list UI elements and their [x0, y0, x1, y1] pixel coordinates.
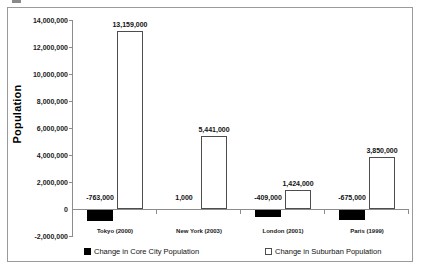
bar-label-suburban-newyork: 5,441,000 [198, 126, 229, 133]
chart-screenshot: Population 14,000,000 12,000,000 10,000,… [0, 0, 423, 268]
y-tick-mark [69, 20, 73, 21]
bar-label-suburban-paris: 3,850,000 [366, 147, 397, 154]
bar-label-core-london: -409,000 [254, 194, 282, 201]
x-tick-mark [408, 210, 409, 214]
y-tick-mark [69, 101, 73, 102]
legend-swatch-icon [265, 248, 272, 255]
y-tick-label: 14,000,000 [33, 17, 68, 24]
bar-core-london[interactable] [255, 210, 281, 217]
legend-swatch-icon [84, 248, 91, 255]
y-tick-mark [69, 236, 73, 237]
y-tick-mark [69, 47, 73, 48]
x-tick-mark [156, 210, 157, 214]
y-tick-label: -2,000,000 [35, 233, 68, 240]
y-tick-mark [69, 74, 73, 75]
bar-label-core-paris: -675,000 [338, 194, 366, 201]
y-tick-label: 4,000,000 [37, 152, 68, 159]
category-label-london: London (2001) [262, 228, 303, 234]
bar-label-core-tokyo: -763,000 [86, 194, 114, 201]
y-tick-label: 2,000,000 [37, 179, 68, 186]
legend-item-suburban[interactable]: Change in Suburban Population [265, 245, 381, 257]
legend-item-label: Change in Core City Population [94, 247, 199, 256]
y-tick-label: 0 [64, 206, 68, 213]
bar-core-paris[interactable] [339, 210, 365, 220]
category-label-tokyo: Tokyo (2000) [97, 228, 133, 234]
bar-label-suburban-london: 1,424,000 [282, 180, 313, 187]
bar-core-tokyo[interactable] [87, 210, 113, 221]
y-tick-label: 12,000,000 [33, 44, 68, 51]
bar-suburban-london[interactable] [285, 190, 311, 209]
bar-suburban-paris[interactable] [369, 157, 395, 209]
x-tick-mark [240, 210, 241, 214]
y-tick-mark [69, 155, 73, 156]
y-axis-title: Population [11, 59, 23, 169]
y-tick-mark [69, 182, 73, 183]
y-tick-label: 6,000,000 [37, 125, 68, 132]
chart-legend: Change in Core City Population Change in… [72, 245, 412, 259]
category-label-newyork: New York (2003) [176, 228, 222, 234]
bar-suburban-newyork[interactable] [201, 136, 227, 209]
bar-suburban-tokyo[interactable] [117, 31, 143, 209]
y-tick-label: 10,000,000 [33, 71, 68, 78]
y-tick-label: 8,000,000 [37, 98, 68, 105]
y-tick-mark [69, 128, 73, 129]
bar-label-core-newyork: 1,000 [175, 194, 193, 201]
bar-label-suburban-tokyo: 13,159,000 [112, 21, 147, 28]
category-label-paris: Paris (1999) [350, 228, 384, 234]
legend-item-core-city[interactable]: Change in Core City Population [84, 245, 199, 257]
legend-item-label: Change in Suburban Population [275, 247, 381, 256]
x-tick-mark [324, 210, 325, 214]
plot-area: Population 14,000,000 12,000,000 10,000,… [0, 0, 423, 268]
